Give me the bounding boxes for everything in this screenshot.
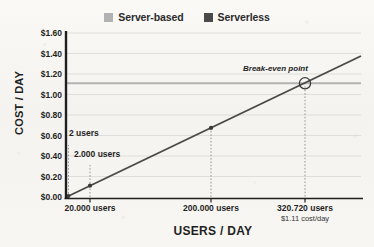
x-tick-group-20000: 20.000 users: [64, 203, 115, 213]
annotation-2-users: 2 users: [69, 128, 99, 138]
x-tick-sublabel-cost-per-day: $1.11 cost/day: [277, 214, 333, 223]
annotation-2000-users: 2.000 users: [74, 149, 120, 159]
x-tick-label-200000: 200.000 users: [183, 203, 239, 213]
x-tick-label-320720: 320.720 users: [277, 203, 333, 213]
cost-comparison-chart: Server-based Serverless COST / DAY USERS…: [0, 0, 374, 247]
annotation-break-even-point: Break-even point: [243, 64, 308, 73]
series-line-serverless: [67, 56, 362, 197]
x-tick-group-200000: 200.000 users: [183, 203, 239, 213]
droplines: [69, 84, 306, 200]
x-tick-label-20000: 20.000 users: [64, 203, 115, 213]
x-tick-group-320720: 320.720 users $1.11 cost/day: [277, 203, 333, 223]
